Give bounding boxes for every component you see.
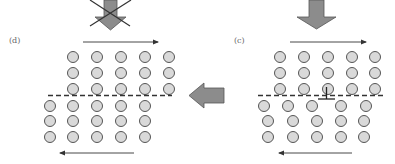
upper-atom-lattice: [68, 52, 175, 95]
crossed-load-arrow-icon: [90, 0, 131, 30]
panel-label-d: (d): [9, 36, 20, 45]
diagram-canvas: [0, 0, 395, 164]
lower-atom-lattice: [259, 101, 372, 143]
dislocation-diagram: (d) (c): [0, 0, 395, 164]
load-arrow-down-icon: [297, 0, 336, 29]
upper-atom-lattice: [275, 52, 381, 95]
lower-atom-lattice: [45, 101, 151, 143]
panel-d: [45, 0, 175, 153]
panel-c: [258, 0, 385, 153]
panel-label-c: (c): [234, 36, 245, 45]
transition-arrow-left-icon: [189, 83, 224, 108]
